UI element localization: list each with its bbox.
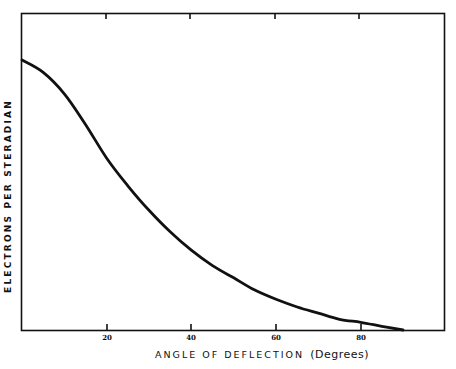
plot-frame xyxy=(22,14,445,331)
x-tick-label: 60 xyxy=(271,333,281,342)
x-tick-label: 20 xyxy=(102,333,112,342)
y-axis-label: ELECTRONS PER STERADIAN xyxy=(3,99,13,293)
x-axis-label: ANGLE OF DEFLECTION(Degrees) xyxy=(155,348,369,361)
data-curve xyxy=(22,60,403,330)
x-axis-title: ANGLE OF DEFLECTION xyxy=(155,349,304,360)
x-tick-label: 80 xyxy=(356,333,366,342)
x-axis-unit: (Degrees) xyxy=(310,348,369,361)
x-tick-label: 40 xyxy=(186,333,196,342)
plot-area xyxy=(0,0,456,369)
bottom-ticks xyxy=(107,324,361,330)
